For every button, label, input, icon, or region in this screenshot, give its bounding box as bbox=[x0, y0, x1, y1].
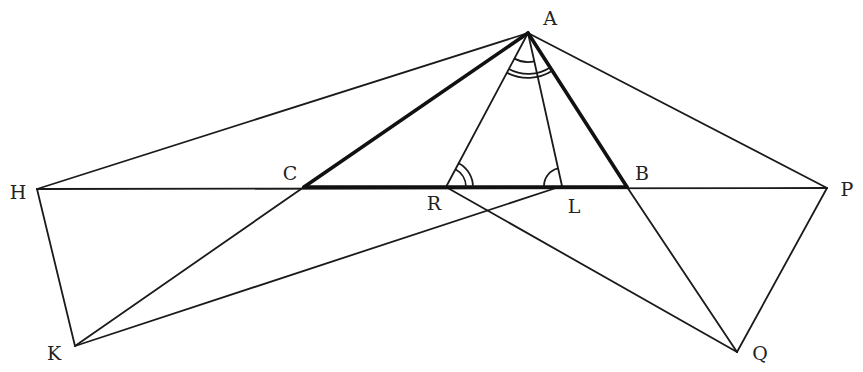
label-B: B bbox=[635, 164, 649, 183]
segment-BQ bbox=[627, 187, 737, 352]
segment-RQ bbox=[446, 187, 737, 352]
segment-KL bbox=[75, 186, 562, 346]
angle-arc-A-double-1 bbox=[509, 68, 550, 74]
segment-AC bbox=[304, 33, 528, 187]
segment-AR bbox=[446, 33, 528, 187]
segment-PQ bbox=[737, 188, 827, 352]
label-A: A bbox=[543, 9, 557, 28]
label-L: L bbox=[568, 197, 581, 216]
label-H: H bbox=[10, 183, 27, 202]
label-K: K bbox=[47, 344, 61, 363]
geometry-diagram: A B C R L H P K Q bbox=[0, 0, 863, 372]
label-R: R bbox=[427, 194, 441, 213]
segment-AB bbox=[528, 33, 627, 187]
label-C: C bbox=[283, 164, 298, 183]
angle-arc-R-1 bbox=[455, 169, 466, 187]
diagram-lines bbox=[0, 0, 863, 372]
angle-arc-A-inner bbox=[514, 59, 534, 62]
segment-AP bbox=[528, 33, 827, 188]
angle-arc-L bbox=[544, 168, 558, 186]
label-Q: Q bbox=[752, 344, 768, 363]
label-P: P bbox=[841, 180, 854, 199]
segment-HK bbox=[37, 189, 75, 346]
segment-AL bbox=[528, 33, 562, 186]
segment-KC bbox=[75, 187, 304, 346]
